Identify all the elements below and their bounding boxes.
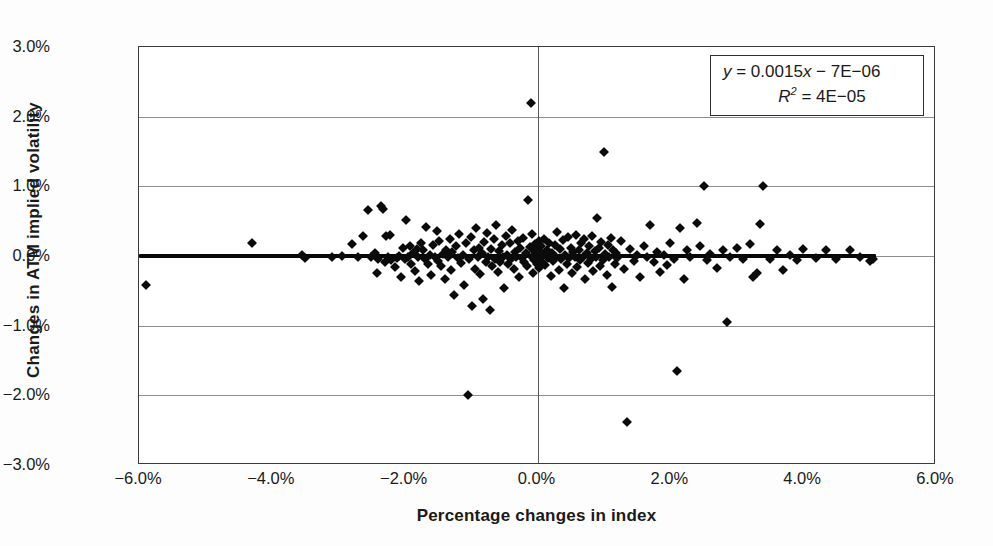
r-squared-symbol: R	[778, 86, 790, 105]
data-point	[499, 283, 509, 293]
data-point	[450, 290, 460, 300]
r-squared-value: = 4E−05	[797, 86, 866, 105]
data-point	[635, 272, 645, 282]
data-point	[692, 218, 702, 228]
data-point	[592, 213, 602, 223]
data-point	[639, 241, 649, 251]
data-point	[675, 223, 685, 233]
data-point	[421, 222, 431, 232]
scatter-chart-figure: Changes in ATM implied volatility Percen…	[0, 0, 993, 546]
data-point	[401, 215, 411, 225]
data-point	[347, 239, 357, 249]
data-point	[440, 274, 450, 284]
data-point	[363, 205, 373, 215]
data-point	[616, 236, 626, 246]
data-point	[141, 280, 151, 290]
data-point	[514, 272, 524, 282]
data-point	[546, 271, 556, 281]
y-axis-tick-label: 2.0%	[0, 107, 50, 124]
x-axis-title: Percentage changes in index	[138, 506, 935, 526]
data-point	[485, 305, 495, 315]
data-point	[619, 264, 629, 274]
data-point	[554, 265, 564, 275]
data-point	[665, 239, 675, 249]
data-point	[695, 241, 705, 251]
gridline-horizontal	[139, 186, 934, 187]
data-point	[396, 272, 406, 282]
data-point	[745, 239, 755, 249]
x-axis-tick-label: 0.0%	[467, 470, 607, 487]
data-point	[491, 220, 501, 230]
data-point	[459, 280, 469, 290]
data-point	[778, 265, 788, 275]
data-point	[432, 226, 442, 236]
data-point	[699, 181, 709, 191]
data-point	[337, 251, 347, 261]
data-point	[454, 229, 464, 239]
data-point	[359, 232, 369, 242]
data-point	[798, 244, 808, 254]
data-point	[471, 223, 481, 233]
data-point	[602, 270, 612, 280]
x-axis-tick-label: 2.0%	[599, 470, 739, 487]
data-point	[372, 268, 382, 278]
r-squared-line: R2 = 4E−05	[719, 84, 915, 108]
data-point	[732, 243, 742, 253]
regression-equation-box: y = 0.0015x − 7E−06 R2 = 4E−05	[710, 55, 924, 116]
x-axis-tick-label: 6.0%	[865, 470, 993, 487]
data-point	[712, 263, 722, 273]
data-point	[580, 274, 590, 284]
data-point	[247, 239, 257, 249]
data-point	[758, 181, 768, 191]
x-axis-tick-label: −4.0%	[201, 470, 341, 487]
data-point	[622, 417, 632, 427]
data-point	[845, 245, 855, 255]
data-point	[446, 265, 456, 275]
data-point	[679, 274, 689, 284]
y-axis-tick-label: 0.0%	[0, 247, 50, 264]
y-axis-tick-label: −3.0%	[0, 456, 50, 473]
data-point	[559, 283, 569, 293]
y-axis-tick-label: −1.0%	[0, 316, 50, 333]
data-point	[599, 147, 609, 157]
data-point	[649, 257, 659, 267]
data-point	[423, 259, 433, 269]
data-point	[645, 220, 655, 230]
x-axis-tick-label: −6.0%	[68, 470, 208, 487]
data-point	[523, 195, 533, 205]
data-point	[655, 267, 665, 277]
data-point	[426, 270, 436, 280]
regression-equation-line: y = 0.0015x − 7E−06	[719, 61, 915, 84]
data-point	[475, 269, 485, 279]
gridline-horizontal	[139, 395, 934, 396]
data-point	[478, 294, 488, 304]
y-axis-tick-label: −2.0%	[0, 386, 50, 403]
data-point	[662, 260, 672, 270]
data-point	[755, 219, 765, 229]
data-point	[463, 390, 473, 400]
x-axis-tick-label: −2.0%	[334, 470, 474, 487]
data-point	[489, 234, 499, 244]
data-point	[772, 245, 782, 255]
data-point	[607, 282, 617, 292]
data-point	[436, 261, 446, 271]
data-point	[414, 276, 424, 286]
data-point	[526, 98, 536, 108]
gridline-horizontal	[139, 117, 934, 118]
data-point	[353, 252, 363, 262]
data-point	[467, 301, 477, 311]
x-axis-tick-label: 4.0%	[732, 470, 872, 487]
data-point	[672, 366, 682, 376]
y-axis-tick-label: 1.0%	[0, 177, 50, 194]
y-axis-tick-label: 3.0%	[0, 38, 50, 55]
gridline-horizontal	[139, 326, 934, 327]
